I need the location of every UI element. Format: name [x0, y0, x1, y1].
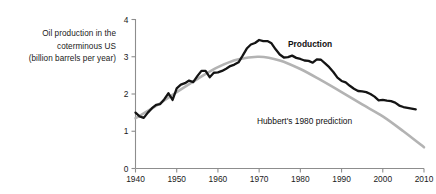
y-tick-label: 4 — [124, 15, 129, 25]
x-tick-label: 1950 — [167, 174, 186, 184]
x-tick-labels: 19401950196019701980199020002010 — [126, 174, 433, 184]
x-tick-label: 2010 — [415, 174, 434, 184]
y-tick-label: 2 — [124, 89, 129, 99]
x-tick-marks — [136, 169, 425, 173]
y-tick-label: 0 — [124, 164, 129, 174]
series-label-hubbert-prediction: Hubbert's 1980 prediction — [257, 116, 353, 126]
x-tick-label: 1940 — [126, 174, 145, 184]
y-tick-label: 3 — [124, 52, 129, 62]
x-tick-label: 1960 — [209, 174, 228, 184]
y-axis: 01234 — [124, 15, 136, 174]
x-tick-label: 1970 — [250, 174, 269, 184]
series-line-hubbert-prediction — [136, 57, 425, 148]
plot-area: 01234 19401950196019701980199020002010 P… — [0, 0, 436, 194]
y-tick-marks — [132, 20, 136, 169]
y-tick-labels: 01234 — [124, 15, 129, 174]
x-tick-label: 1990 — [332, 174, 351, 184]
x-tick-label: 2000 — [373, 174, 392, 184]
series-label-production: Production — [288, 39, 332, 49]
x-tick-label: 1980 — [291, 174, 310, 184]
series-line-production — [136, 40, 416, 118]
x-axis: 19401950196019701980199020002010 — [126, 169, 433, 185]
chart-figure: Oil production in the coterminous US (bi… — [0, 0, 436, 194]
y-tick-label: 1 — [124, 126, 129, 136]
